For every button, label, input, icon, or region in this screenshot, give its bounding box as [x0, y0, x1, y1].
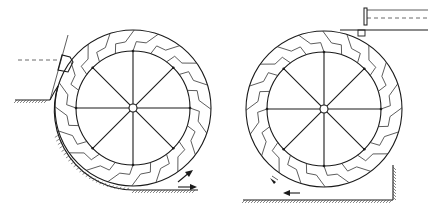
water-wheel-left — [55, 30, 211, 186]
spoke — [93, 111, 130, 148]
spoke-joint — [282, 148, 285, 151]
water-wheel-diagram — [0, 0, 437, 218]
arrow-up-right — [178, 170, 193, 182]
bucket — [151, 46, 180, 54]
spoke-joint — [172, 147, 175, 150]
spoke — [327, 112, 364, 149]
bucket — [342, 163, 371, 171]
bucket — [132, 162, 151, 186]
bucket — [187, 126, 195, 155]
bucket — [378, 108, 402, 127]
hub — [320, 105, 328, 113]
spoke — [284, 69, 321, 106]
spoke-joint — [282, 67, 285, 70]
right-scene — [242, 8, 428, 203]
water-wheel-right — [246, 31, 402, 187]
gate-block — [358, 30, 365, 36]
spoke-joint — [363, 67, 366, 70]
hub — [129, 104, 137, 112]
bucket — [246, 91, 270, 110]
bucket — [115, 30, 134, 54]
bucket — [187, 90, 211, 109]
spoke — [136, 68, 173, 105]
arrow-right — [178, 184, 197, 190]
spoke — [327, 69, 364, 106]
bucket — [277, 47, 306, 55]
spoke-joint — [91, 147, 94, 150]
spoke-joint — [363, 148, 366, 151]
bucket — [378, 62, 386, 91]
bucket — [306, 163, 325, 187]
bucket — [262, 127, 270, 156]
spoke — [136, 111, 173, 148]
sluice-gate-right — [364, 8, 367, 25]
spoke — [284, 112, 321, 149]
bucket — [55, 107, 79, 126]
spoke-joint — [172, 66, 175, 69]
spoke-joint — [91, 66, 94, 69]
arrow-left — [270, 176, 300, 196]
left-scene — [14, 30, 211, 193]
bucket — [323, 31, 342, 55]
bucket — [71, 61, 79, 90]
bucket — [86, 162, 115, 170]
spoke — [93, 68, 130, 105]
breast-wall — [54, 86, 133, 190]
